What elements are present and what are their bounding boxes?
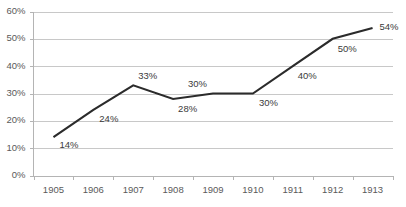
- chart-canvas: 0%10%20%30%40%50%60% 1905190619071908190…: [0, 0, 406, 207]
- data-point-label: 30%: [259, 97, 279, 108]
- data-point-labels-group: 14%24%33%28%30%30%40%50%54%: [59, 21, 399, 150]
- y-tick-label: 20%: [6, 114, 26, 125]
- data-point-label: 30%: [188, 78, 208, 89]
- y-tick-labels-group: 0%10%20%30%40%50%60%: [6, 5, 26, 180]
- data-point-label: 40%: [298, 70, 318, 81]
- data-point-label: 50%: [338, 43, 358, 54]
- x-tick-label: 1910: [242, 184, 263, 195]
- y-tick-label: 40%: [6, 60, 26, 71]
- y-tick-label: 60%: [6, 5, 26, 16]
- y-tick-label: 10%: [6, 142, 26, 153]
- y-axis-group: [30, 12, 34, 177]
- x-tick-label: 1913: [362, 184, 383, 195]
- y-tick-label: 0%: [12, 169, 26, 180]
- line-chart: 0%10%20%30%40%50%60% 1905190619071908190…: [0, 0, 406, 207]
- y-tick-label: 50%: [6, 32, 26, 43]
- x-tick-label: 1905: [43, 184, 64, 195]
- x-tick-label: 1908: [163, 184, 184, 195]
- data-point-label: 33%: [138, 70, 158, 81]
- data-point-label: 54%: [380, 21, 400, 32]
- x-tick-label: 1909: [202, 184, 223, 195]
- y-tick-label: 30%: [6, 87, 26, 98]
- x-axis-group: [34, 176, 394, 180]
- data-point-label: 28%: [178, 103, 198, 114]
- x-tick-label: 1907: [123, 184, 144, 195]
- x-tick-label: 1911: [283, 184, 303, 195]
- data-point-label: 24%: [99, 113, 119, 124]
- x-tick-labels-group: 190519061907190819091910191119121913: [43, 184, 383, 195]
- x-tick-label: 1912: [322, 184, 343, 195]
- x-tick-label: 1906: [83, 184, 104, 195]
- data-point-label: 14%: [59, 139, 79, 150]
